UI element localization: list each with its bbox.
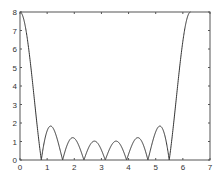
x-tick-label: 2 (72, 163, 77, 172)
y-tick-label: 4 (13, 82, 18, 91)
y-axis: 012345678 (13, 8, 210, 165)
y-tick-label: 1 (13, 138, 18, 147)
x-tick-label: 3 (99, 163, 104, 172)
y-tick-label: 8 (13, 8, 18, 17)
x-tick-label: 6 (181, 163, 186, 172)
y-tick-label: 3 (13, 101, 18, 110)
axes-box (20, 12, 210, 160)
data-line (20, 12, 191, 160)
x-tick-label: 0 (18, 163, 23, 172)
x-tick-label: 1 (45, 163, 50, 172)
x-tick-label: 4 (126, 163, 131, 172)
y-tick-label: 5 (13, 64, 18, 73)
line-chart: 01234567 012345678 (0, 0, 221, 178)
x-tick-label: 7 (208, 163, 213, 172)
y-tick-label: 0 (13, 156, 18, 165)
y-tick-label: 6 (13, 45, 18, 54)
y-tick-label: 2 (13, 119, 18, 128)
x-tick-label: 5 (153, 163, 158, 172)
y-tick-label: 7 (13, 27, 18, 36)
